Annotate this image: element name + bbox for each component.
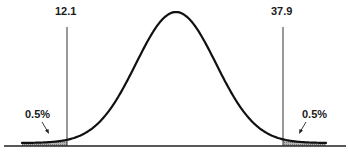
right-critical-value-label: 37.9: [271, 5, 292, 17]
bell-curve: [22, 12, 326, 143]
normal-distribution-chart: [0, 0, 348, 157]
left-arrow-head: [45, 129, 49, 134]
right-arrow-head: [299, 129, 303, 134]
left-critical-value-label: 12.1: [55, 5, 76, 17]
left-tail-percent-label: 0.5%: [25, 108, 50, 120]
right-tail-percent-label: 0.5%: [302, 108, 327, 120]
